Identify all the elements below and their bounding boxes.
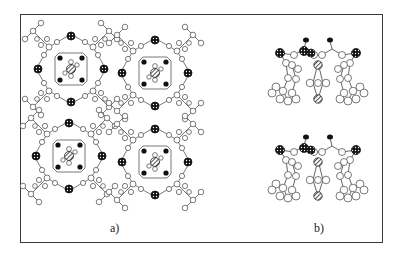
molecular-structure-figure [0,0,402,257]
molecule-a-bottom-left [20,107,118,205]
panel-b-molecules [268,38,368,203]
molecule-a-top-left [22,20,120,118]
panel-a-molecules [20,20,204,211]
panel-b-label: b) [314,221,324,236]
molecule-a-bottom-right [106,113,204,211]
panel-a-label: a) [110,221,119,236]
molecule-b-bottom [268,135,368,203]
molecule-a-top-right [106,24,204,122]
molecule-b-top [268,38,368,106]
